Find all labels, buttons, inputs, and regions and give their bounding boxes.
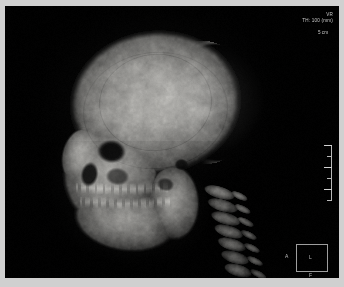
scale-bar-label: 5 cm [318,30,328,35]
scale-tick [324,189,332,190]
orientation-label-feet: F [309,272,312,278]
image-viewport[interactable]: VR TH: 100 (mm) 5 cm A L F [5,6,339,278]
slab-thickness-label: TH: 100 (mm) [302,18,333,25]
scale-tick [324,145,332,146]
dicom-viewer-window: VR TH: 100 (mm) 5 cm A L F [0,0,344,287]
orientation-cube[interactable]: A L F [283,238,333,278]
scale-tick [327,156,332,157]
scale-tick [327,200,332,201]
scale-bar-spine [331,145,332,201]
scale-bar [323,145,332,201]
orientation-cube-box [296,244,328,272]
orientation-label-anterior: A [285,253,288,259]
orientation-label-left: L [309,254,312,260]
scale-tick [327,178,332,179]
scale-tick [324,167,332,168]
